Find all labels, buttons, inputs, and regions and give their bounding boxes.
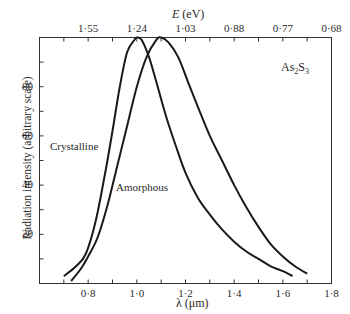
top-tick-label: 1·03 [175, 22, 195, 34]
x-tick-label: 1·4 [227, 287, 242, 299]
x-tick-label: 1·0 [129, 287, 144, 299]
y-axis-title: Radiation intensity (arbitrary scale) [21, 73, 33, 243]
x-tick-label: 1·6 [275, 287, 290, 299]
x-tick-label: 1·8 [324, 287, 339, 299]
top-tick-label: 1·24 [127, 22, 147, 34]
x-tick-label: 0·8 [81, 287, 96, 299]
emission-spectrum-chart [0, 0, 350, 314]
x-tick-label: 1·2 [178, 287, 193, 299]
top-tick-label: 0·68 [321, 22, 341, 34]
compound-label: As2S3 [281, 60, 309, 76]
top-axis-title: E (eV) [172, 7, 204, 22]
top-tick-label: 1·55 [78, 22, 98, 34]
amorphous-curve [71, 37, 307, 281]
spectrum-curves [64, 37, 307, 281]
y-tick-label: 60 [22, 129, 33, 141]
top-tick-label: 0·77 [273, 22, 293, 34]
y-tick-label: 40 [22, 178, 33, 190]
crystalline-curve [64, 37, 293, 276]
crystalline-label: Crystalline [50, 140, 98, 152]
top-tick-label: 0·88 [224, 22, 244, 34]
y-tick-label: 20 [22, 227, 33, 239]
y-tick-label: 80 [22, 80, 33, 92]
amorphous-label: Amorphous [116, 181, 168, 193]
